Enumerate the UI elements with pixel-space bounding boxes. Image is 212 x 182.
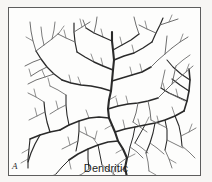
east-branch-g [135, 125, 145, 143]
twig-40 [95, 131, 97, 139]
sw-branch-c [50, 86, 66, 95]
twig-43 [120, 37, 122, 45]
west-trunk [30, 130, 60, 139]
n-branch-d [94, 17, 97, 33]
ne-branch-i [148, 101, 151, 120]
trunk-branch-left-upper [62, 80, 111, 91]
nw-branch-d [30, 22, 36, 51]
ne-branch-d [151, 48, 172, 67]
sw-branch-e [62, 141, 78, 149]
trunk-branch-right-lower [115, 111, 184, 132]
se-branch-e [150, 143, 164, 154]
ne-branch-c [134, 17, 139, 34]
n-branch-b [74, 22, 90, 32]
twig-11 [86, 110, 89, 118]
twig-28 [56, 101, 58, 109]
nw-branch-g [41, 27, 44, 45]
twig-29 [68, 137, 70, 145]
twig-18 [29, 69, 31, 76]
se-branch-a [182, 146, 195, 158]
nw-branch-c [25, 59, 41, 66]
sw-branch-a [28, 93, 44, 102]
east-branch-a [161, 88, 187, 101]
west-branch-a [44, 102, 50, 132]
nw-branch-b [31, 67, 47, 76]
trunk-branch-right-crown [113, 34, 139, 50]
se-branch-i [130, 147, 143, 158]
figure-container: A Dendritic [0, 0, 212, 182]
east-branch-d [175, 116, 182, 146]
ne-branch-a [139, 25, 156, 33]
west-branch-c [66, 95, 69, 125]
east-branch-e [165, 120, 167, 150]
sw-branch-d [50, 105, 66, 114]
twig-02 [116, 149, 123, 153]
se-branch-n [161, 70, 165, 88]
east-branch-h [128, 127, 135, 157]
sw-branch-b [29, 112, 45, 120]
twig-06 [123, 120, 125, 129]
twig-17 [42, 70, 45, 77]
dendritic-drainage-illustration [9, 8, 201, 176]
n-branch-a [58, 34, 75, 42]
figure-frame [8, 7, 201, 176]
se-branch-m [176, 55, 190, 66]
trunk-branch-left-crown [86, 28, 112, 41]
twig-16 [132, 45, 134, 53]
twig-22 [80, 19, 82, 27]
trunk-branch-right-mid [108, 98, 158, 109]
se-branch-d [167, 140, 183, 148]
west-branch-d [76, 121, 79, 151]
ne-branch-f [172, 37, 188, 48]
n-trunk [74, 23, 77, 52]
twig-12 [126, 96, 128, 104]
twig-38 [48, 78, 50, 86]
twig-09 [93, 138, 98, 145]
twig-27 [35, 108, 37, 116]
east-branch-f [146, 123, 155, 153]
east-branch-b [172, 79, 189, 91]
ne-trunk [152, 18, 163, 42]
trunk-branch-left-top [77, 52, 113, 70]
twig-14 [130, 67, 132, 75]
n-branch-c [83, 20, 86, 28]
figure-caption: Dendritic [0, 163, 212, 174]
twig-30 [22, 149, 29, 153]
twig-45 [140, 64, 142, 72]
twig-50 [50, 174, 56, 176]
trunk-branch-right-top [114, 42, 152, 60]
twig-47 [116, 98, 118, 106]
se-branch-l [179, 66, 193, 78]
twig-08 [172, 107, 175, 116]
twig-04 [105, 125, 112, 129]
twig-20 [59, 26, 64, 33]
ne-branch-e [165, 36, 167, 54]
ne-branch-j [133, 103, 138, 122]
nw-branch-e [36, 33, 59, 51]
se-branch-b [181, 128, 196, 136]
sw-branch-f [79, 131, 95, 139]
